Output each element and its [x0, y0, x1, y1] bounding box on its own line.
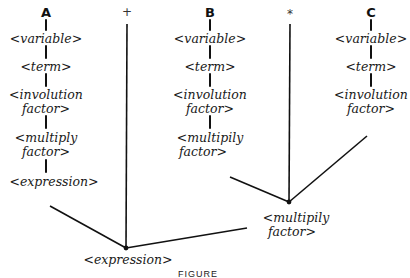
a-expression-node: <expression>: [9, 175, 98, 189]
operand-c-label: C: [366, 6, 376, 20]
a-variable-node: <variable>: [10, 32, 82, 46]
c-involution-node-line1: <involution: [334, 88, 408, 102]
b-involution-node-line1: <involution: [173, 88, 247, 102]
root-expression-node: <expression>: [83, 253, 172, 267]
b-term-node: <term>: [184, 60, 235, 74]
operand-a-label: A: [41, 6, 51, 20]
merged-multiply-node-line1: <multipily: [263, 211, 329, 225]
a-involution-node-line2: factor>: [22, 102, 70, 116]
figure-caption: FIGURE: [178, 269, 218, 278]
a-multiply-node-line1: <multiply: [15, 131, 77, 145]
c-involution-node-line2: factor>: [347, 102, 395, 116]
b-involution-node-line2: factor>: [186, 102, 234, 116]
parse-tree-diagram: A <variable> <term> <involution factor> …: [0, 0, 410, 278]
a-multiply-node-line2: factor>: [22, 145, 70, 159]
a-term-node: <term>: [20, 60, 71, 74]
c-variable-node: <variable>: [335, 32, 407, 46]
b-multiply-node-line1: <multipily: [177, 131, 243, 145]
b-multiply-node-line2: factor>: [179, 145, 227, 159]
merged-multiply-node-line2: factor>: [268, 225, 316, 239]
plus-operator: +: [122, 6, 132, 18]
a-involution-node-line1: <involution: [9, 88, 83, 102]
junction-dot-multiply: [287, 200, 292, 205]
b-variable-node: <variable>: [174, 32, 246, 46]
operand-b-label: B: [205, 6, 215, 20]
c-term-node: <term>: [345, 60, 396, 74]
times-operator: *: [287, 8, 293, 20]
junction-dot-expression: [124, 246, 129, 251]
